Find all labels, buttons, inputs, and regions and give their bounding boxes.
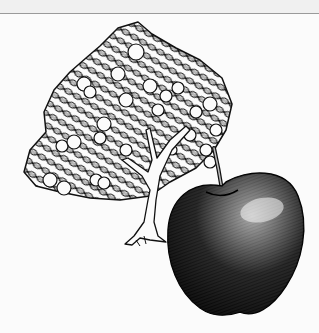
illustration-frame: Pen-and-ink illustration of an orange tr… xyxy=(0,0,319,333)
tree-canopy xyxy=(24,22,232,200)
apple xyxy=(168,148,304,315)
illustration xyxy=(0,0,319,333)
